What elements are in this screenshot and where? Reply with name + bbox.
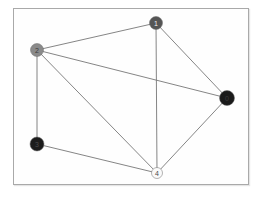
node-marker[interactable] [31,44,44,57]
graph-edge [37,144,157,173]
graph-edge [156,23,227,98]
graph-edge [37,50,227,98]
graph-edge [156,23,157,173]
graph-node-1[interactable]: 1 [150,17,163,30]
node-marker[interactable] [30,137,44,151]
graph-edge [37,23,156,50]
edges-group [37,23,227,173]
node-marker[interactable] [220,91,235,106]
graph-node-0[interactable]: 0 [220,91,235,106]
graph-node-2[interactable]: 2 [31,44,44,57]
node-marker[interactable] [152,168,163,179]
graph-node-3[interactable]: 3 [30,137,44,151]
graph-canvas: 01234 [0,0,263,199]
graph-node-4[interactable]: 4 [152,168,163,179]
nodes-group: 01234 [30,17,235,179]
graph-edge [37,50,157,173]
graph-edge [157,98,227,173]
graph-figure: 01234 [0,0,263,199]
node-marker[interactable] [150,17,163,30]
